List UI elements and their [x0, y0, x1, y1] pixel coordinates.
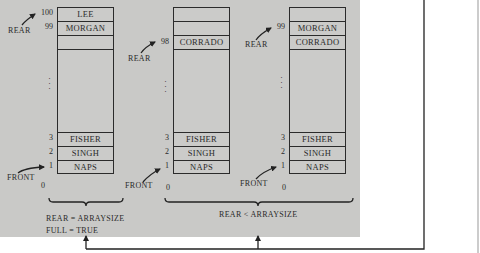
- front-arrow-icon: [256, 167, 276, 179]
- connector-lines: [0, 0, 480, 253]
- brace-full: [49, 198, 123, 206]
- rear-arrow-icon: [141, 42, 155, 53]
- brace-partial: [165, 198, 353, 206]
- rear-arrow-icon: [256, 28, 271, 40]
- front-arrow-icon: [143, 169, 160, 182]
- rear-arrow-icon: [22, 14, 35, 25]
- feedback-line: [86, 0, 424, 249]
- front-arrow-icon: [18, 167, 44, 173]
